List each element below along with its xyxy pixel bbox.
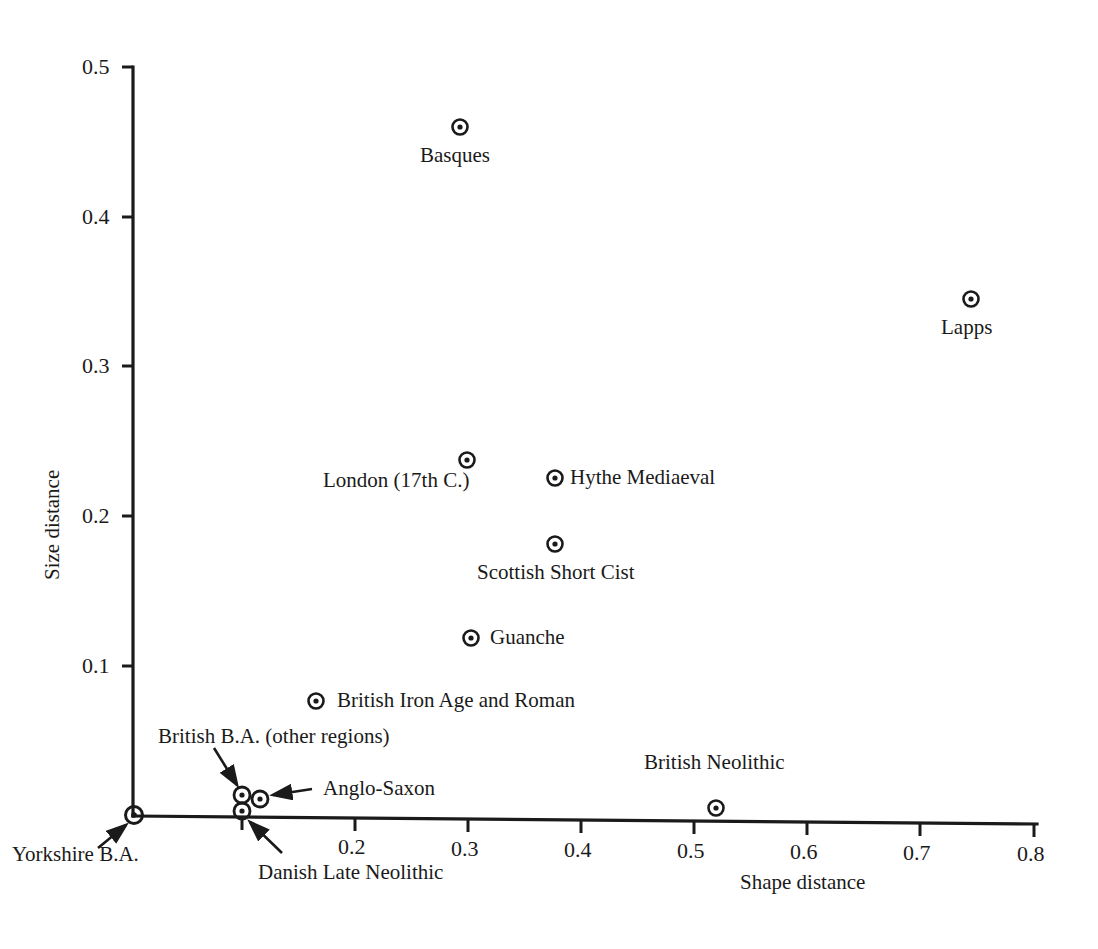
x-tick-label-0-2: 0.2 (338, 836, 366, 858)
point-label-british-iron-age-and-roman: British Iron Age and Roman (337, 690, 575, 711)
point-label-yorkshire-ba: Yorkshire B.A. (12, 844, 139, 865)
marker-scottish-short-cist[interactable] (548, 537, 563, 552)
x-tick-label-0-7: 0.7 (903, 842, 931, 864)
marker-guanche[interactable] (464, 631, 479, 646)
y-tick-label-0-1: 0.1 (82, 655, 110, 677)
y-axis-ticks (122, 67, 133, 666)
point-label-hythe-mediaeval: Hythe Mediaeval (570, 467, 715, 488)
marker-basques[interactable] (453, 120, 468, 135)
y-tick-label-0-2: 0.2 (82, 505, 110, 527)
marker-british-neolithic[interactable] (709, 801, 724, 816)
marker-british-ba-other-regions[interactable] (234, 787, 250, 803)
marker-british-iron-age-and-roman[interactable] (309, 694, 324, 709)
point-label-british-neolithic: British Neolithic (644, 752, 785, 773)
x-tick-label-0-3: 0.3 (451, 838, 479, 860)
x-tick-label-0-4: 0.4 (564, 839, 592, 861)
x-tick-label-0-5: 0.5 (677, 840, 705, 862)
point-label-guanche: Guanche (490, 627, 565, 648)
marker-hythe-mediaeval[interactable] (548, 471, 563, 486)
y-tick-label-0-5: 0.5 (82, 56, 110, 78)
data-markers (126, 120, 979, 824)
x-axis-line (133, 816, 1037, 824)
x-axis-title: Shape distance (740, 872, 865, 893)
marker-lapps[interactable] (964, 292, 979, 307)
marker-london-17th-c[interactable] (460, 453, 475, 468)
point-label-anglo-saxon: Anglo-Saxon (323, 778, 435, 799)
arrow-british-ba (214, 748, 237, 785)
point-label-london-17th-c: London (17th C.) (323, 470, 469, 491)
marker-anglo-saxon[interactable] (252, 791, 268, 807)
point-label-scottish-short-cist: Scottish Short Cist (477, 562, 635, 583)
arrow-danish-late-neolithic (250, 822, 282, 853)
plot-canvas (0, 0, 1098, 949)
point-label-british-ba-other-regions: British B.A. (other regions) (158, 726, 390, 747)
y-tick-label-0-4: 0.4 (82, 206, 110, 228)
point-label-lapps: Lapps (941, 317, 992, 338)
arrow-anglo-saxon (273, 789, 312, 795)
point-label-basques: Basques (420, 145, 490, 166)
y-axis-title: Size distance (42, 470, 63, 580)
x-tick-label-0-6: 0.6 (790, 841, 818, 863)
y-tick-label-0-3: 0.3 (82, 355, 110, 377)
point-label-danish-late-neolithic: Danish Late Neolithic (258, 862, 443, 883)
scatter-plot-figure: 0.5 0.4 0.3 0.2 0.1 0.2 0.3 0.4 0.5 0.6 … (0, 0, 1098, 949)
annotation-arrows (98, 748, 312, 853)
x-tick-label-0-8: 0.8 (1017, 843, 1045, 865)
